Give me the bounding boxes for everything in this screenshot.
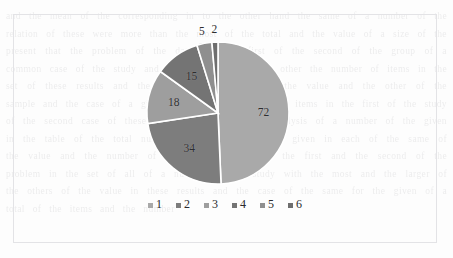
- legend-item-label: 4: [240, 197, 246, 212]
- pie-slice: [218, 42, 289, 184]
- pie-data-label: 72: [258, 106, 270, 118]
- plot-area: 7234181552 123456: [14, 15, 436, 242]
- legend-swatch-icon: [260, 203, 265, 208]
- pie-data-label: 5: [199, 25, 205, 37]
- legend-item[interactable]: 5: [260, 197, 274, 212]
- legend-swatch-icon: [288, 203, 293, 208]
- pie-data-label: 18: [168, 96, 180, 108]
- legend-item-label: 1: [156, 197, 162, 212]
- legend-item-label: 5: [268, 197, 274, 212]
- legend-swatch-icon: [176, 203, 181, 208]
- pie-data-label: 15: [186, 70, 198, 82]
- legend-item-label: 2: [184, 197, 190, 212]
- chart-frame: 7234181552 123456: [13, 14, 437, 243]
- screenshot-root: and the mean of the corresponding in to …: [0, 0, 453, 258]
- legend-item[interactable]: 3: [204, 197, 218, 212]
- legend-swatch-icon: [204, 203, 209, 208]
- legend-item[interactable]: 4: [232, 197, 246, 212]
- legend-swatch-icon: [148, 203, 153, 208]
- legend-item-label: 6: [296, 197, 302, 212]
- legend-item-label: 3: [212, 197, 218, 212]
- pie-data-label: 34: [183, 142, 195, 154]
- legend: 123456: [14, 197, 436, 212]
- pie-chart: 7234181552: [146, 41, 290, 185]
- legend-item[interactable]: 2: [176, 197, 190, 212]
- legend-swatch-icon: [232, 203, 237, 208]
- legend-item[interactable]: 6: [288, 197, 302, 212]
- pie-data-label: 2: [212, 23, 218, 35]
- legend-item[interactable]: 1: [148, 197, 162, 212]
